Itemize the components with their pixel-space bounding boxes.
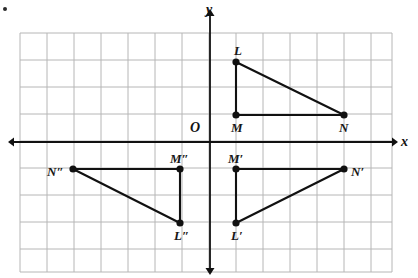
x-axis-label: x: [401, 135, 408, 149]
vertex-dot-L: [232, 58, 239, 65]
vertex-dot-Mp: [232, 165, 239, 172]
point-label-Mpp: M″: [170, 152, 189, 165]
point-label-Lpp: L″: [174, 229, 189, 242]
y-axis-label: y: [206, 3, 212, 17]
vertex-dot-Lpp: [176, 219, 183, 226]
vertex-dot-Lp: [232, 219, 239, 226]
point-label-Np: N′: [351, 165, 364, 178]
vertex-dot-M: [232, 111, 239, 118]
vertex-dot-N: [340, 111, 347, 118]
vertex-dot-Npp: [69, 165, 76, 172]
point-label-L: L: [234, 44, 242, 57]
vertex-dot-Np: [340, 165, 347, 172]
point-label-Npp: N″: [47, 165, 64, 178]
coordinate-geometry-figure: [0, 0, 418, 278]
vertex-dot-Mpp: [176, 165, 183, 172]
point-label-Mp: M′: [228, 152, 243, 165]
axes: [8, 9, 398, 275]
point-label-N: N: [339, 121, 348, 134]
origin-label: O: [190, 121, 200, 135]
x-axis-arrow-left-icon: [8, 138, 14, 147]
grid-lines: [20, 33, 392, 272]
triangle-LppMppNpp: [73, 169, 180, 223]
point-label-Lp: L′: [231, 229, 243, 242]
point-label-M: M: [231, 121, 243, 134]
x-axis-arrow-right-icon: [392, 138, 398, 147]
